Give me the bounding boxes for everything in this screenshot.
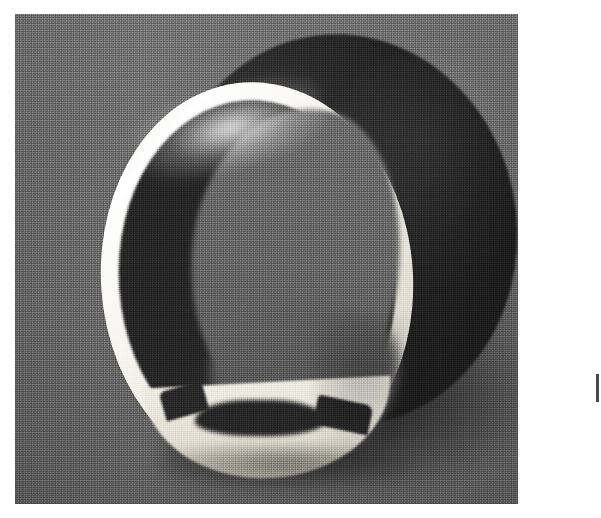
scanned-page	[0, 0, 601, 518]
photograph	[15, 14, 518, 504]
scan-mark	[596, 374, 599, 402]
rim-step-inner-edge	[195, 400, 325, 436]
contact-shadow	[155, 446, 415, 498]
front-rim-shadow-falloff	[315, 314, 435, 464]
